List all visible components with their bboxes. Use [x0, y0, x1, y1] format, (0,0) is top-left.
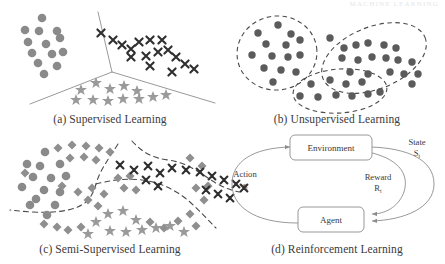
- caption-panel-c: (c) Semi-Supervised Learning: [39, 243, 181, 256]
- caption-panel-d: (d) Reinforcement Learning: [271, 243, 403, 256]
- panel-semi-supervised: (c) Semi-Supervised Learning: [10, 140, 247, 256]
- state-label: State: [408, 137, 425, 147]
- edge-label-reward: Reward Rt: [365, 172, 392, 194]
- reward-symbol: Rt: [374, 183, 382, 194]
- edge-label-state: State St: [408, 137, 425, 159]
- node-environment[interactable]: Environment: [290, 135, 372, 160]
- ml-paradigms-figure: (a) Supervised Learning: [0, 0, 445, 264]
- panel-unsupervised: (b) Unsupervised Learning: [232, 9, 436, 126]
- panel-reinforcement: Environment Agent Action at State St Rew…: [232, 135, 434, 256]
- agent-label: Agent: [320, 215, 342, 225]
- node-agent[interactable]: Agent: [298, 207, 364, 232]
- cluster-left-dots: [248, 21, 303, 85]
- reward-label: Reward: [365, 172, 392, 182]
- cluster-outlines-dashed: [232, 9, 436, 117]
- decision-boundary-solid: [30, 12, 215, 104]
- panel-supervised: (a) Supervised Learning: [21, 12, 215, 126]
- class-stars-group: [70, 77, 172, 106]
- cluster-right-dots: [326, 34, 421, 87]
- edge-label-action: Action at: [233, 169, 257, 191]
- cluster-bottom-dots: [296, 76, 383, 100]
- action-symbol: at: [242, 180, 248, 191]
- figure-canvas: (a) Supervised Learning: [0, 0, 445, 264]
- caption-panel-b: (b) Unsupervised Learning: [274, 113, 401, 126]
- action-label: Action: [233, 169, 257, 179]
- state-symbol: St: [414, 148, 421, 159]
- unlabeled-diamonds-group: [20, 140, 212, 234]
- environment-label: Environment: [308, 143, 355, 153]
- caption-panel-a: (a) Supervised Learning: [53, 113, 167, 126]
- class-crosses-group: [97, 29, 197, 75]
- class-circles-group: [21, 14, 68, 79]
